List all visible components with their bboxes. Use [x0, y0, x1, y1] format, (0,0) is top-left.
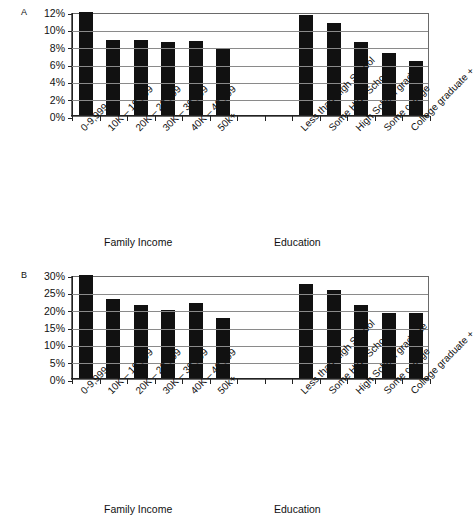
- y-axis-tick-label: 20%: [44, 305, 65, 316]
- y-axis-tick-label: 12%: [44, 8, 65, 19]
- group-title-education-b: Education: [274, 503, 321, 515]
- group-title-education-a: Education: [274, 236, 321, 248]
- y-tick-mark: [68, 100, 72, 101]
- y-axis-tick-label: 15%: [44, 323, 65, 334]
- y-tick-mark: [68, 277, 72, 278]
- bar: [106, 40, 120, 116]
- y-tick-mark: [68, 311, 72, 312]
- y-axis-tick-label: 0%: [50, 112, 65, 123]
- y-tick-mark: [68, 294, 72, 295]
- panel-b: B 0%5%10%15%20%25%30% 0-9,99910K – 19,99…: [0, 262, 453, 529]
- x-tick-mark: [292, 116, 293, 121]
- panel-a-label: A: [21, 7, 27, 17]
- y-axis-tick-label: 0%: [50, 375, 65, 386]
- gridline: [72, 294, 428, 295]
- y-tick-mark: [68, 118, 72, 119]
- gridline: [72, 31, 428, 32]
- y-axis-tick-label: 30%: [44, 271, 65, 282]
- y-tick-mark: [68, 363, 72, 364]
- gridline: [72, 329, 428, 330]
- gridline: [72, 100, 428, 101]
- x-tick-mark: [265, 116, 266, 121]
- y-axis-tick-label: 10%: [44, 340, 65, 351]
- y-tick-mark: [68, 48, 72, 49]
- gridline: [72, 363, 428, 364]
- y-tick-mark: [68, 329, 72, 330]
- x-tick-mark: [292, 379, 293, 384]
- panel-b-label: B: [21, 270, 27, 280]
- y-tick-mark: [68, 381, 72, 382]
- gridline: [72, 66, 428, 67]
- gridline: [72, 311, 428, 312]
- y-axis-tick-label: 5%: [50, 357, 65, 368]
- panel-a: A 0%2%4%6%8%10%12% 0-9,99910K – 19,99920…: [0, 0, 453, 262]
- y-axis-tick-label: 8%: [50, 42, 65, 53]
- bar: [299, 284, 313, 379]
- x-tick-mark: [265, 379, 266, 384]
- y-axis-tick-label: 2%: [50, 94, 65, 105]
- y-tick-mark: [68, 346, 72, 347]
- y-axis-tick-label: 10%: [44, 25, 65, 36]
- group-title-income-a: Family Income: [104, 236, 172, 248]
- y-axis-tick-label: 25%: [44, 288, 65, 299]
- y-axis-tick-label: 4%: [50, 77, 65, 88]
- y-axis-tick-label: 6%: [50, 60, 65, 71]
- y-tick-mark: [68, 66, 72, 67]
- y-tick-mark: [68, 83, 72, 84]
- y-tick-mark: [68, 14, 72, 15]
- gridline: [72, 48, 428, 49]
- y-tick-mark: [68, 31, 72, 32]
- group-title-income-b: Family Income: [104, 503, 172, 515]
